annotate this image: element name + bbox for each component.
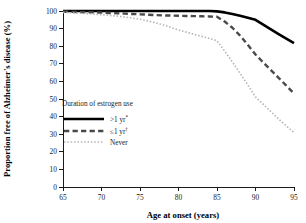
x-tick-label: 80: [175, 193, 183, 202]
legend-title: Duration of estrogen use: [62, 100, 133, 108]
legend-label-0: >1 yr*: [110, 114, 128, 124]
chart-canvas: 0102030405060708090100 65707580859095 Du…: [0, 0, 306, 223]
x-tick-label: 90: [252, 193, 260, 202]
y-axis-title: Proportion free of Alzheimer's disease (…: [2, 21, 12, 177]
y-tick-label: 10: [50, 165, 58, 174]
y-tick-label: 100: [46, 7, 57, 16]
y-tick-label: 0: [53, 183, 57, 192]
x-axis-ticks: 65707580859095: [59, 187, 298, 202]
y-tick-label: 40: [50, 112, 58, 121]
x-axis-title: Age at onset (years): [147, 210, 219, 220]
series-line-2: [63, 12, 294, 132]
y-tick-label: 60: [50, 77, 58, 86]
y-tick-label: 90: [50, 24, 58, 33]
x-tick-label: 65: [59, 193, 67, 202]
y-tick-label: 20: [50, 147, 58, 156]
y-axis-ticks: 0102030405060708090100: [46, 7, 63, 192]
x-tick-label: 95: [290, 193, 298, 202]
x-tick-label: 70: [98, 193, 106, 202]
legend-entries: >1 yr*≤1 yr†Never: [64, 114, 128, 147]
x-tick-label: 75: [136, 193, 144, 202]
axes: [63, 11, 294, 187]
y-tick-label: 70: [50, 59, 58, 68]
chart-legend: Duration of estrogen use >1 yr*≤1 yr†Nev…: [62, 100, 133, 147]
legend-label-1: ≤1 yr†: [110, 126, 128, 136]
data-series-group: [63, 11, 294, 132]
y-tick-label: 80: [50, 42, 58, 51]
legend-label-2: Never: [110, 139, 128, 147]
alzheimers-survival-chart: 0102030405060708090100 65707580859095 Du…: [0, 0, 306, 223]
x-tick-label: 85: [213, 193, 221, 202]
y-tick-label: 50: [50, 95, 58, 104]
y-tick-label: 30: [50, 130, 58, 139]
series-line-1: [63, 12, 294, 94]
